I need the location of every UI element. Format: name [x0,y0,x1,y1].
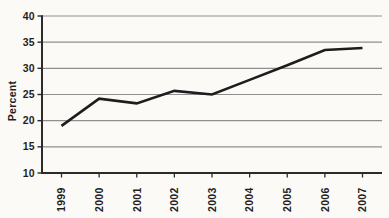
y-tick-label: 15 [23,140,35,152]
y-tick-label: 40 [23,10,35,22]
x-tick-label: 2007 [356,187,368,212]
y-tick-label: 35 [23,36,35,48]
x-tick-label: 1999 [55,187,67,212]
x-tick-label: 2006 [319,187,331,212]
y-tick-label: 10 [23,167,35,179]
y-tick-label: 25 [23,88,35,100]
x-tick-label: 2001 [131,187,143,212]
x-tick-label: 2004 [243,187,255,212]
x-tick-label: 2003 [206,187,218,212]
x-tick-label: 2005 [281,187,293,212]
x-tick-label: 2002 [168,187,180,212]
data-line [62,48,363,126]
chart-canvas: Percent 10152025303540199920002001200220… [0,0,389,218]
y-axis-title: Percent [6,80,18,121]
y-tick-label: 20 [23,114,35,126]
y-tick-label: 30 [23,62,35,74]
line-chart: Percent 10152025303540199920002001200220… [0,0,389,218]
x-tick-label: 2000 [93,187,105,212]
